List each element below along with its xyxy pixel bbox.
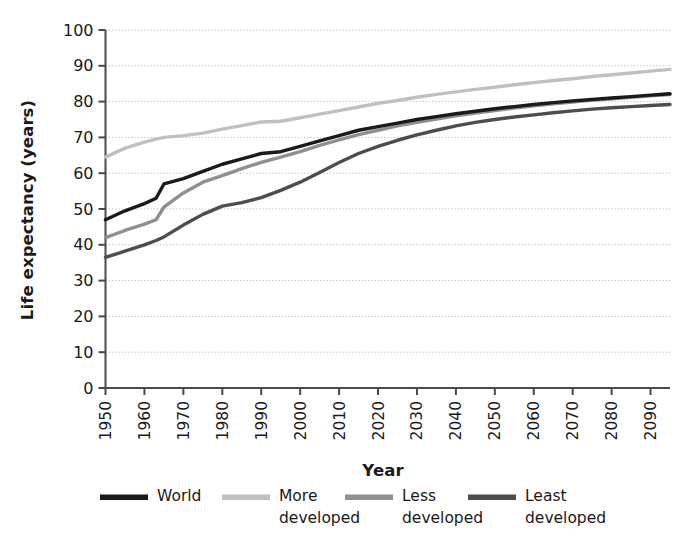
y-axis-title: Life expectancy (years): [18, 100, 37, 320]
y-tick-label-80: 80: [73, 92, 93, 111]
x-tick-label-2090: 2090: [642, 401, 660, 440]
y-tick-label-40: 40: [73, 235, 93, 254]
x-tick-label-2050: 2050: [486, 401, 504, 440]
legend-label-more-line2: developed: [279, 509, 360, 527]
legend-label-less: Less: [402, 487, 436, 505]
x-tick-label-2010: 2010: [331, 401, 349, 440]
x-tick-label-1950: 1950: [97, 401, 115, 440]
chart-background: [0, 0, 689, 550]
legend-swatch-less: [345, 495, 393, 501]
legend-swatch-least: [468, 495, 516, 501]
y-tick-label-10: 10: [73, 343, 93, 362]
y-tick-label-90: 90: [73, 56, 93, 75]
y-tick-label-30: 30: [73, 271, 93, 290]
x-tick-label-2040: 2040: [447, 401, 465, 440]
life-expectancy-line-chart: 0102030405060708090100 19501960197019801…: [0, 0, 689, 550]
x-tick-label-2020: 2020: [370, 401, 388, 440]
x-tick-label-1980: 1980: [214, 401, 232, 440]
x-axis-title: Year: [361, 461, 404, 480]
legend-label-more: More: [279, 487, 317, 505]
y-tick-label-100: 100: [63, 21, 94, 40]
y-tick-label-70: 70: [73, 128, 93, 147]
legend-label-less-line2: developed: [402, 509, 483, 527]
x-tick-label-2070: 2070: [564, 401, 582, 440]
x-tick-label-2060: 2060: [525, 401, 543, 440]
y-tick-label-20: 20: [73, 307, 93, 326]
x-tick-label-2030: 2030: [408, 401, 426, 440]
x-tick-label-1970: 1970: [175, 401, 193, 440]
x-tick-label-2080: 2080: [603, 401, 621, 440]
x-tick-label-1960: 1960: [136, 401, 154, 440]
legend-label-least-line2: developed: [525, 509, 606, 527]
y-tick-label-60: 60: [73, 164, 93, 183]
chart-figure: 0102030405060708090100 19501960197019801…: [0, 0, 689, 550]
legend-label-least: Least: [525, 487, 567, 505]
x-tick-label-2000: 2000: [292, 401, 310, 440]
legend-swatch-more: [222, 495, 270, 501]
y-tick-label-0: 0: [83, 379, 93, 398]
legend-label-world: World: [157, 487, 201, 505]
y-tick-label-50: 50: [73, 200, 93, 219]
x-axis-tick-labels: 1950196019701980199020002010202020302040…: [97, 401, 660, 440]
legend-swatch-world: [100, 495, 148, 501]
x-tick-label-1990: 1990: [253, 401, 271, 440]
